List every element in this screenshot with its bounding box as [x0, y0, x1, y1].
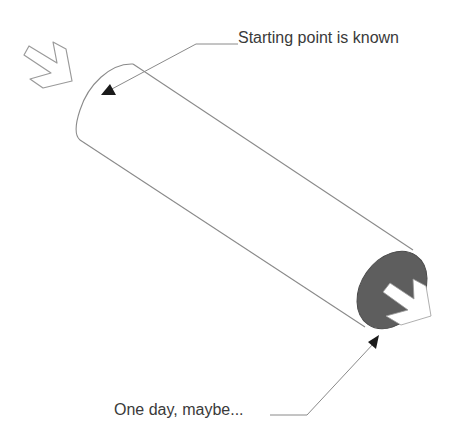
- callout-end-leader: [270, 335, 379, 415]
- arrowhead-icon: [101, 84, 116, 95]
- callout-label-end: One day, maybe...: [114, 402, 244, 418]
- arrowhead-icon: [368, 335, 379, 349]
- callout-start-leader: [101, 44, 238, 95]
- entry-arrow-icon: [24, 42, 72, 88]
- callout-label-start: Starting point is known: [238, 30, 399, 46]
- pipe-diagram: [0, 0, 455, 445]
